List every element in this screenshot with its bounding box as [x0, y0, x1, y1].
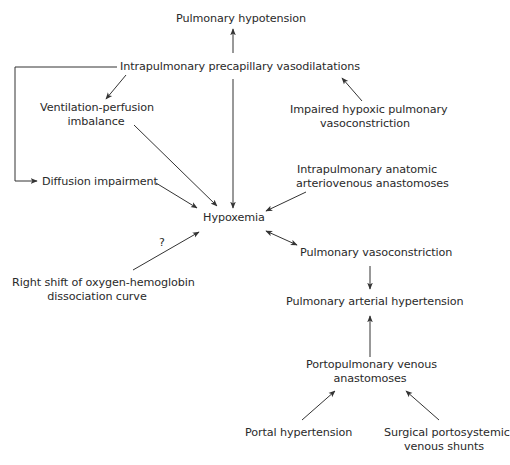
node-portal-hypertension: Portal hypertension — [245, 426, 349, 440]
vq-line-2: imbalance — [40, 115, 152, 129]
right-shift-line-1: Right shift of oxygen-hemoglobin — [12, 276, 182, 290]
anatomic-line-2: arteriovenous anastomoses — [296, 177, 438, 191]
arrow-vq-to-hypoxemia — [134, 125, 217, 206]
node-vq-imbalance: Ventilation-perfusion imbalance — [40, 101, 152, 129]
node-right-shift: Right shift of oxygen-hemoglobin dissoci… — [12, 276, 182, 304]
node-surgical-shunts: Surgical portosystemic venous shunts — [384, 426, 504, 454]
arrow-diffusion-to-hypoxemia — [156, 183, 197, 208]
node-intrapulmonary-vasodilatations: Intrapulmonary precapillary vasodilatati… — [120, 60, 350, 74]
impaired-line-2: vasoconstriction — [290, 117, 440, 131]
diagram-canvas: Pulmonary hypotension Intrapulmonary pre… — [0, 0, 510, 465]
anatomic-line-1: Intrapulmonary anatomic — [296, 163, 438, 177]
surgical-line-1: Surgical portosystemic — [384, 426, 504, 440]
vq-line-1: Ventilation-perfusion — [40, 101, 152, 115]
node-anatomic-anastomoses: Intrapulmonary anatomic arteriovenous an… — [296, 163, 438, 191]
arrow-anatomic-to-hypoxemia — [266, 192, 306, 211]
portopulmonary-line-1: Portopulmonary venous — [306, 358, 434, 372]
node-pulmonary-hypotension: Pulmonary hypotension — [176, 12, 292, 26]
node-pulmonary-vasoconstriction: Pulmonary vasoconstriction — [300, 246, 440, 260]
arrow-right-shift-to-hypoxemia — [133, 232, 199, 270]
arrow-to-vq-imbalance — [106, 75, 126, 99]
node-pulmonary-arterial-hypertension: Pulmonary arterial hypertension — [286, 295, 454, 309]
node-portopulmonary-anastomoses: Portopulmonary venous anastomoses — [306, 358, 434, 386]
arrow-portal-htn — [302, 391, 335, 420]
node-hypoxemia: Hypoxemia — [203, 211, 265, 225]
arrow-hypoxemia-vasoconstriction — [266, 231, 297, 245]
impaired-line-1: Impaired hypoxic pulmonary — [290, 103, 440, 117]
arrow-surgical-shunts — [406, 391, 439, 420]
arrow-from-impaired-hpv — [342, 78, 362, 101]
node-impaired-hpv: Impaired hypoxic pulmonary vasoconstrict… — [290, 103, 440, 131]
right-shift-line-2: dissociation curve — [12, 290, 182, 304]
uncertain-link-label: ? — [159, 236, 165, 249]
node-diffusion-impairment: Diffusion impairment — [42, 175, 152, 189]
surgical-line-2: venous shunts — [384, 440, 504, 454]
portopulmonary-line-2: anastomoses — [306, 372, 434, 386]
